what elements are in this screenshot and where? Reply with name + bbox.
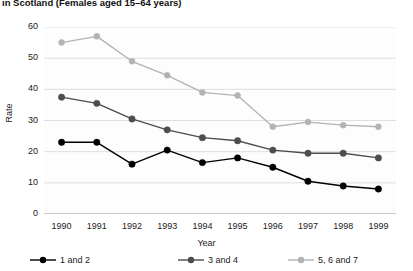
x-axis-tick-label: 1990	[42, 221, 82, 231]
data-point	[305, 150, 311, 156]
data-point	[375, 155, 381, 161]
data-point	[340, 122, 346, 128]
x-axis-tick-label: 1998	[323, 221, 363, 231]
data-point	[58, 94, 64, 100]
data-point	[129, 58, 135, 64]
data-point	[59, 40, 65, 46]
data-point	[129, 116, 135, 122]
data-point	[199, 134, 205, 140]
series-line	[62, 36, 379, 126]
data-point	[94, 100, 100, 106]
y-axis-title: Rate	[4, 93, 14, 133]
data-point	[94, 33, 100, 39]
data-point	[375, 186, 381, 192]
x-axis-tick-label: 1994	[182, 221, 222, 231]
data-point	[375, 124, 381, 130]
data-point	[164, 147, 170, 153]
data-point	[129, 161, 135, 167]
data-point	[234, 138, 240, 144]
x-axis-tick-label: 1995	[218, 221, 258, 231]
data-point	[199, 89, 205, 95]
y-axis-tick-label: 10	[12, 177, 38, 187]
y-axis-tick-label: 30	[12, 115, 38, 125]
data-point	[340, 183, 346, 189]
x-axis-tick-label: 1996	[253, 221, 293, 231]
data-point	[305, 178, 311, 184]
chart-legend: 1 and 23 and 45, 6 and 7	[0, 252, 413, 270]
series-line	[62, 97, 379, 158]
data-point	[234, 155, 240, 161]
x-axis-tick-label: 1997	[288, 221, 328, 231]
x-axis-tick-label: 1992	[112, 221, 152, 231]
legend-marker-icon	[30, 255, 56, 265]
data-point	[235, 93, 241, 99]
data-point	[270, 147, 276, 153]
x-axis-tick-label: 1993	[147, 221, 187, 231]
legend-item[interactable]: 3 and 4	[178, 252, 238, 268]
data-point	[340, 150, 346, 156]
legend-label: 5, 6 and 7	[318, 255, 358, 265]
y-axis-tick-label: 50	[12, 52, 38, 62]
data-point	[199, 159, 205, 165]
legend-label: 3 and 4	[208, 255, 238, 265]
legend-label: 1 and 2	[60, 255, 90, 265]
x-axis-tick-label: 1999	[358, 221, 398, 231]
legend-item[interactable]: 1 and 2	[30, 252, 90, 268]
data-point	[94, 139, 100, 145]
line-chart: in Scotland (Females aged 15–64 years) R…	[0, 0, 413, 271]
x-axis-tick-label: 1991	[77, 221, 117, 231]
legend-marker-icon	[178, 255, 204, 265]
data-point	[305, 119, 311, 125]
data-point	[58, 139, 64, 145]
plot-area	[44, 27, 396, 214]
y-axis-tick-label: 0	[12, 208, 38, 218]
legend-marker-icon	[288, 255, 314, 265]
plot-svg	[44, 27, 396, 214]
data-point	[164, 127, 170, 133]
data-point	[270, 164, 276, 170]
legend-item[interactable]: 5, 6 and 7	[288, 252, 358, 268]
y-axis-tick-label: 40	[12, 83, 38, 93]
y-axis-tick-label: 20	[12, 146, 38, 156]
y-axis-tick-label: 60	[12, 21, 38, 31]
chart-title: in Scotland (Females aged 15–64 years)	[2, 0, 302, 8]
data-point	[270, 124, 276, 130]
x-axis-title: Year	[0, 238, 413, 248]
data-point	[164, 72, 170, 78]
series-line	[62, 142, 379, 189]
